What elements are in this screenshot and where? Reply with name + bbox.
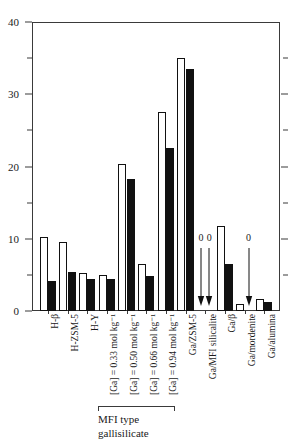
zero-value-label: 0 [199,233,204,243]
y-axis-minor-tick-mark-right [283,130,288,131]
bar [68,272,76,311]
bar [217,226,225,311]
bracket-cap-left [98,406,99,411]
bar [107,279,115,312]
y-axis-tick-mark [25,22,32,23]
zero-value-arrow-icon [244,248,253,310]
cropped-caption-sliver [0,0,293,7]
y-axis-tick-mark [25,311,32,312]
bar [186,69,194,311]
x-axis-category-label: Ga/alumina [268,314,278,358]
bar [40,237,48,311]
x-axis-category-label: H-Y [91,314,101,331]
group-caption-line2: gallisilicate [98,426,238,440]
bar [256,299,264,311]
bar [59,242,67,311]
bar [138,264,146,311]
x-axis-category-label: [Ga] = 0.94 mol kg⁻¹ [169,314,179,395]
bar [127,179,135,311]
x-axis-category-label: [Ga] = 0.33 mol kg⁻¹ [110,314,120,395]
bar [177,58,185,311]
y-axis-minor-tick-mark-right [283,58,288,59]
bar [87,279,95,311]
bar [48,281,56,311]
group-caption: MFI type gallisilicate [98,412,238,440]
bar [166,148,174,311]
y-axis-tick-label: 30 [8,89,19,100]
bar [79,273,87,311]
bar [99,275,107,311]
y-axis-tick-mark [25,166,32,167]
y-axis-tick-label: 20 [8,161,19,172]
y-axis-tick-mark-right [281,238,288,239]
zero-value-arrow-icon [205,248,214,310]
y-axis-right-ticks [280,22,288,311]
bar [118,164,126,311]
x-axis-category-label: Ga/mordenite [248,314,258,366]
x-axis-category-label: H-ZSM-5 [71,314,81,351]
y-axis-tick-label: 0 [14,306,20,317]
bracket-cap-right [174,406,175,411]
y-axis-tick-mark-right [281,166,288,167]
group-caption-line1: MFI type [98,412,238,426]
bracket-line [98,406,175,407]
zero-value-label: 0 [246,233,251,243]
x-axis-category-label: H-β [51,314,61,329]
y-axis-tick-label: 10 [8,233,19,244]
y-axis-tick-mark [25,238,32,239]
x-axis-category-label: Ga/β [228,314,238,333]
bar [146,276,154,311]
y-axis-tick-mark-right [281,94,288,95]
y-axis-tick-label: 40 [8,17,19,28]
bar [158,112,166,311]
x-axis-category-label: Ga/MFI silicalite [209,314,219,379]
x-axis-category-label: [Ga] = 0.50 mol kg⁻¹ [130,314,140,395]
x-axis-category-label: Ga/ZSM-5 [189,314,199,355]
bars-layer: 000 [32,22,280,311]
x-axis-labels: H-βH-ZSM-5H-Y[Ga] = 0.33 mol kg⁻¹[Ga] = … [32,314,280,394]
bar [225,264,233,311]
y-axis-minor-tick-mark-right [283,274,288,275]
y-axis-tick-mark [25,94,32,95]
zero-value-label: 0 [207,233,212,243]
x-axis-category-label: [Ga] = 0.66 mol kg⁻¹ [150,314,160,395]
bar [264,302,272,311]
y-axis-minor-tick-mark-right [283,202,288,203]
y-axis: 010203040 [0,0,32,320]
